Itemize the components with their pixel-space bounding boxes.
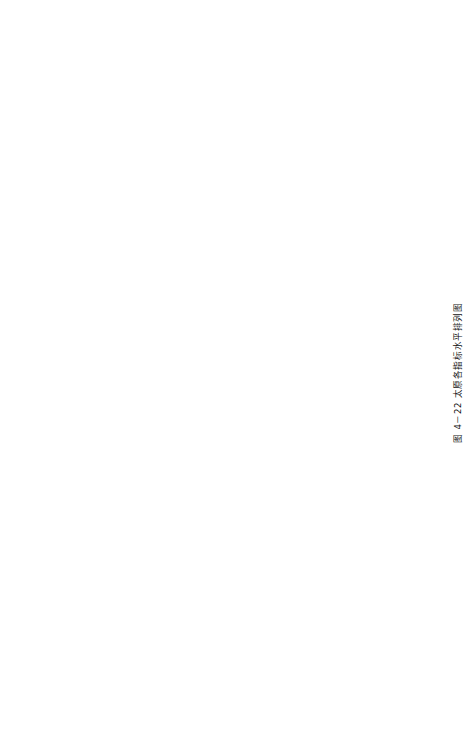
rotated-figure-wrapper: 图 4－22 太原各指标水平排列图 bbox=[0, 0, 471, 745]
figure-page: 图 4－22 太原各指标水平排列图 bbox=[0, 0, 471, 745]
radar-chart-figure: 图 4－22 太原各指标水平排列图 bbox=[0, 0, 471, 745]
radar-chart-canvas bbox=[0, 0, 471, 745]
figure-caption: 图 4－22 太原各指标水平排列图 bbox=[451, 0, 463, 745]
